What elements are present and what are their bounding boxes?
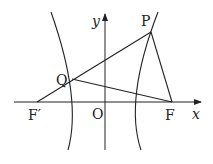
label-y-axis: y — [91, 13, 101, 29]
segment-fprime-p — [37, 32, 151, 102]
label-q: Q — [56, 72, 67, 88]
diagram-canvas: P Q F F′ O x y — [0, 0, 213, 164]
label-p: P — [141, 13, 150, 29]
label-f-prime: F′ — [28, 107, 41, 123]
right-branch — [135, 12, 158, 150]
label-x-axis: x — [192, 106, 200, 122]
hyperbola-diagram: P Q F F′ O x y — [0, 0, 213, 164]
label-f: F — [165, 107, 175, 123]
label-origin: O — [92, 106, 103, 122]
segment-p-f — [151, 32, 172, 102]
segment-q-f — [72, 79, 172, 102]
